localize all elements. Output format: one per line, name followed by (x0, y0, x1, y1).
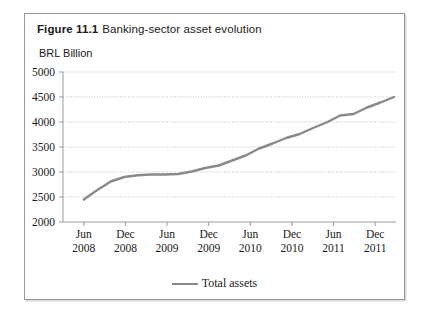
x-tick-year: 2009 (145, 242, 189, 256)
y-tick-label: 3500 (32, 141, 55, 153)
gridlines-group (63, 72, 396, 197)
y-tick-group: 5000450040003500300025002000 (32, 66, 63, 228)
x-tick-year: 2011 (353, 242, 397, 256)
y-tick-label: 3000 (32, 166, 55, 178)
x-tick-month: Dec (103, 228, 147, 242)
figure-title: Banking-sector asset evolution (102, 23, 262, 35)
x-tick-year: 2010 (270, 242, 314, 256)
x-tick-month: Dec (270, 228, 314, 242)
x-tick-label: Jun2010 (228, 228, 272, 255)
x-axis-labels: Jun2008Dec2008Jun2009Dec2009Jun2010Dec20… (25, 228, 404, 270)
x-tick-month: Jun (145, 228, 189, 242)
chart-legend: Total assets (25, 276, 404, 291)
series-line-total-assets (84, 97, 394, 200)
x-tick-group (84, 222, 375, 226)
figure-number: Figure 11.1 (37, 23, 98, 35)
x-tick-year: 2009 (187, 242, 231, 256)
y-tick-label: 2000 (32, 216, 55, 228)
y-tick-label: 4500 (32, 91, 55, 103)
legend-label-total-assets: Total assets (202, 276, 257, 291)
legend-line-swatch (172, 283, 198, 285)
x-tick-label: Jun2009 (145, 228, 189, 255)
y-tick-label: 2500 (32, 191, 55, 203)
x-tick-month: Dec (353, 228, 397, 242)
x-tick-month: Jun (312, 228, 356, 242)
y-tick-label: 5000 (32, 66, 55, 78)
x-tick-year: 2011 (312, 242, 356, 256)
x-tick-year: 2010 (228, 242, 272, 256)
x-tick-label: Dec2011 (353, 228, 397, 255)
x-tick-label: Jun2011 (312, 228, 356, 255)
line-chart-svg: 5000450040003500300025002000 (25, 66, 404, 234)
x-tick-label: Dec2008 (103, 228, 147, 255)
plot-area: 5000450040003500300025002000 (25, 66, 404, 234)
x-tick-month: Dec (187, 228, 231, 242)
figure-caption: Figure 11.1Banking-sector asset evolutio… (37, 23, 262, 35)
x-tick-year: 2008 (62, 242, 106, 256)
y-axis-unit-label: BRL Billion (39, 47, 92, 59)
x-tick-month: Jun (62, 228, 106, 242)
x-tick-label: Dec2009 (187, 228, 231, 255)
x-tick-month: Jun (228, 228, 272, 242)
figure-card: Figure 11.1Banking-sector asset evolutio… (24, 13, 405, 300)
y-tick-label: 4000 (32, 116, 55, 128)
x-tick-label: Jun2008 (62, 228, 106, 255)
x-tick-label: Dec2010 (270, 228, 314, 255)
x-tick-year: 2008 (103, 242, 147, 256)
